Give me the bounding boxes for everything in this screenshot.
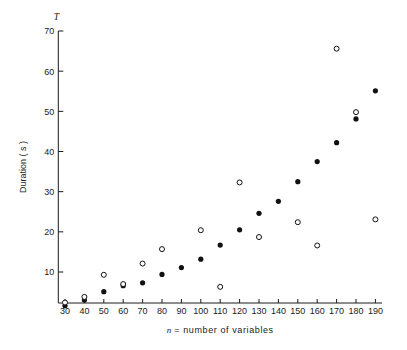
y-tick-label: 50 <box>44 107 54 117</box>
x-tick-label: 120 <box>232 306 247 316</box>
data-point-filled <box>334 140 339 145</box>
x-tick-label: 90 <box>176 306 186 316</box>
data-point-open <box>334 46 339 51</box>
data-point-open <box>82 294 87 299</box>
data-point-filled <box>276 199 281 204</box>
scatter-plot-figure: 1020304050607030405060708090100110120130… <box>0 0 407 350</box>
y-tick-label: 10 <box>44 267 54 277</box>
data-point-open <box>121 282 126 287</box>
data-point-filled <box>353 116 358 121</box>
data-point-filled <box>179 265 184 270</box>
data-point-open <box>101 272 106 277</box>
data-point-filled <box>295 179 300 184</box>
x-tick-label: 130 <box>251 306 266 316</box>
data-point-filled <box>140 280 145 285</box>
x-tick-label: 190 <box>368 306 383 316</box>
data-point-filled <box>237 227 242 232</box>
x-tick-label: 60 <box>118 306 128 316</box>
ticks-group: 1020304050607030405060708090100110120130… <box>44 26 383 316</box>
data-point-open <box>160 247 165 252</box>
x-tick-label: 40 <box>79 306 89 316</box>
y-tick-label: 60 <box>44 67 54 77</box>
data-point-open <box>373 217 378 222</box>
data-point-filled <box>256 211 261 216</box>
data-point-filled <box>198 257 203 262</box>
y-axis-symbol-T: T <box>54 12 60 22</box>
axis-labels-group: TDuration ( s )n = number of variables <box>18 12 274 335</box>
y-tick-label: 40 <box>44 147 54 157</box>
data-point-open <box>218 284 223 289</box>
data-point-filled <box>218 242 223 247</box>
data-point-filled <box>373 88 378 93</box>
x-tick-label: 50 <box>99 306 109 316</box>
data-point-open <box>198 228 203 233</box>
x-tick-label: 100 <box>193 306 208 316</box>
data-point-open <box>63 300 68 305</box>
data-point-open <box>237 180 242 185</box>
x-tick-label: 110 <box>213 306 227 316</box>
y-tick-label: 30 <box>44 187 54 197</box>
data-point-open <box>354 110 359 115</box>
data-point-open <box>295 220 300 225</box>
data-point-open <box>140 261 145 266</box>
x-tick-label: 70 <box>138 306 148 316</box>
x-tick-label: 140 <box>271 306 286 316</box>
x-tick-label: 150 <box>290 306 305 316</box>
y-tick-label: 20 <box>44 227 54 237</box>
data-point-open <box>315 243 320 248</box>
x-tick-label: 180 <box>348 306 363 316</box>
data-point-filled <box>159 272 164 277</box>
x-tick-label: 170 <box>329 306 344 316</box>
x-tick-label: 80 <box>157 306 167 316</box>
x-tick-label: 160 <box>310 306 325 316</box>
y-tick-label: 70 <box>44 26 54 36</box>
data-point-filled <box>315 159 320 164</box>
data-points-group <box>62 46 378 308</box>
x-axis-title: n = number of variables <box>167 325 274 335</box>
data-point-filled <box>101 289 106 294</box>
axes-group <box>58 31 382 303</box>
y-axis-title: Duration ( s ) <box>18 141 28 193</box>
data-point-open <box>257 235 262 240</box>
